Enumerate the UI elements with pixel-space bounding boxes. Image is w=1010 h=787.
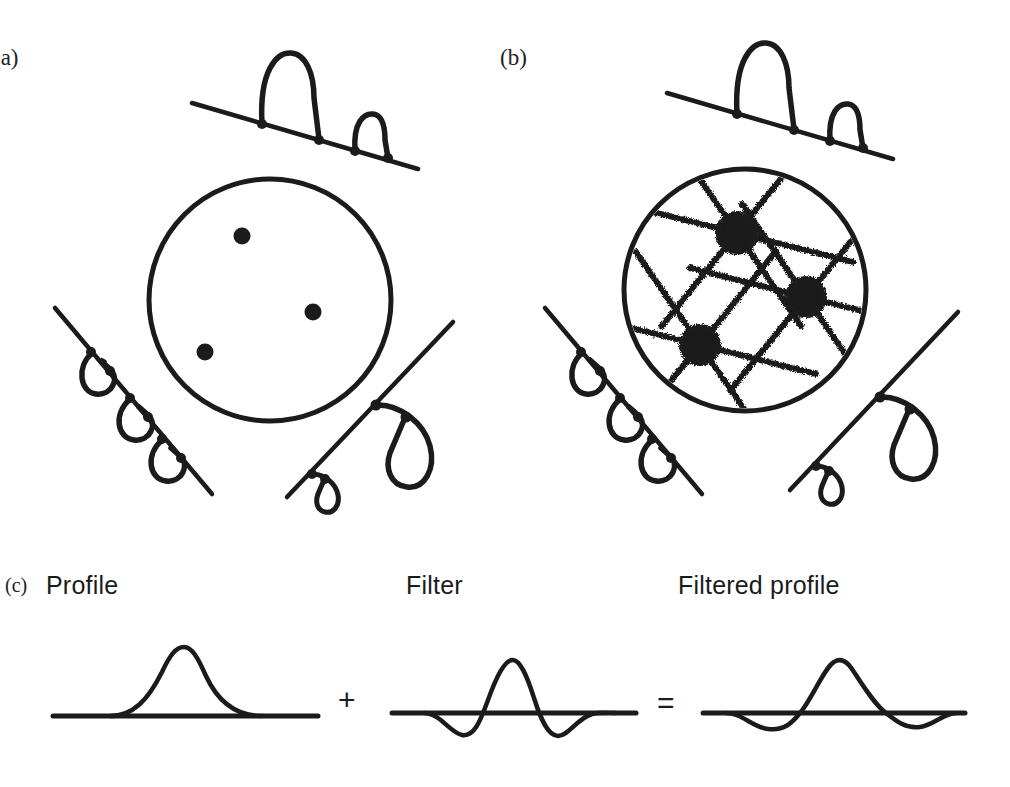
figure-root: (a) (b) (c) Profile Filter Filtered prof… — [0, 0, 1010, 787]
filter-title: Filter — [406, 573, 463, 598]
panel-b-backprojection-streaks — [584, 139, 922, 439]
plus-operator: + — [338, 685, 356, 715]
panel-b-label: (b) — [500, 46, 527, 69]
panel-a-lr-large-foot-left — [371, 400, 382, 411]
equals-operator: = — [657, 688, 675, 718]
panel-b-ll-peak3-foot-right — [666, 453, 676, 463]
panel-b-ll-peak2-foot-right — [633, 412, 643, 422]
panel-a-graphic — [55, 53, 453, 512]
panel-c-label: (c) — [5, 575, 27, 595]
panel-a-ll-peak1-foot-right — [105, 366, 115, 376]
panel-a-top-peak2-foot-right — [383, 153, 393, 163]
panel-a-ll-peak1-foot-left — [86, 347, 96, 357]
panel-b-top-projection — [667, 43, 893, 159]
panel-b-lower-left-projection — [545, 308, 702, 494]
panel-b-top-peak2-foot-left — [825, 136, 835, 146]
panel-b-ll-peak2-foot-left — [615, 393, 625, 403]
panel-a-top-projection — [192, 53, 418, 169]
panel-a-point-source-1 — [234, 228, 251, 245]
panel-a-ll-peak2-foot-left — [125, 393, 135, 403]
panel-a-ll-peak2-foot-right — [143, 412, 153, 422]
panel-c-filter-chart — [392, 660, 636, 736]
panel-b-lower-right-projection — [790, 312, 958, 504]
panel-b-ll-peak1-foot-left — [576, 347, 586, 357]
panel-a-top-peak1-foot-right — [314, 135, 324, 145]
panel-b-ll-peak1-foot-right — [595, 366, 605, 376]
panel-b-top-peak1-foot-left — [732, 109, 742, 119]
panel-c-filter-curve — [424, 660, 616, 736]
panel-b-graphic — [545, 43, 958, 504]
panel-a-point-source-3 — [197, 344, 214, 361]
panel-c-graphic — [53, 647, 965, 736]
panel-c-profile-chart — [53, 647, 318, 716]
panel-b-lr-small-foot-left — [811, 461, 821, 471]
panel-a-label: (a) — [0, 46, 19, 69]
panel-a-lr-small-foot-left — [307, 469, 317, 479]
panel-b-ll-peak3-foot-left — [647, 434, 657, 444]
panel-a-lr-small-foot-right — [320, 474, 330, 484]
panel-b-lr-large-foot-right — [905, 404, 916, 415]
panel-c-filtered-profile-chart — [703, 660, 965, 729]
profile-title: Profile — [46, 573, 118, 598]
figure-canvas — [0, 0, 1010, 787]
panel-c-filtered-curve — [726, 660, 956, 729]
panel-a-object-circle — [149, 179, 391, 421]
panel-c-profile-curve — [110, 647, 262, 716]
panel-a-point-source-2 — [305, 304, 322, 321]
panel-a-lower-left-projection — [55, 308, 212, 494]
panel-b-lr-small-foot-right — [824, 466, 834, 476]
panel-a-top-peak2-foot-left — [350, 146, 360, 156]
panel-b-top-peak1-foot-right — [789, 125, 799, 135]
panel-a-ll-peak3-foot-left — [157, 434, 167, 444]
panel-a-ll-peak3-foot-right — [176, 453, 186, 463]
panel-a-lr-large-foot-right — [401, 412, 412, 423]
panel-a-lower-right-projection — [287, 322, 453, 512]
panel-b-lr-large-foot-left — [875, 392, 886, 403]
panel-b-top-peak2-foot-right — [858, 143, 868, 153]
filtered-profile-title: Filtered profile — [678, 573, 840, 598]
panel-a-top-peak1-foot-left — [257, 119, 267, 129]
